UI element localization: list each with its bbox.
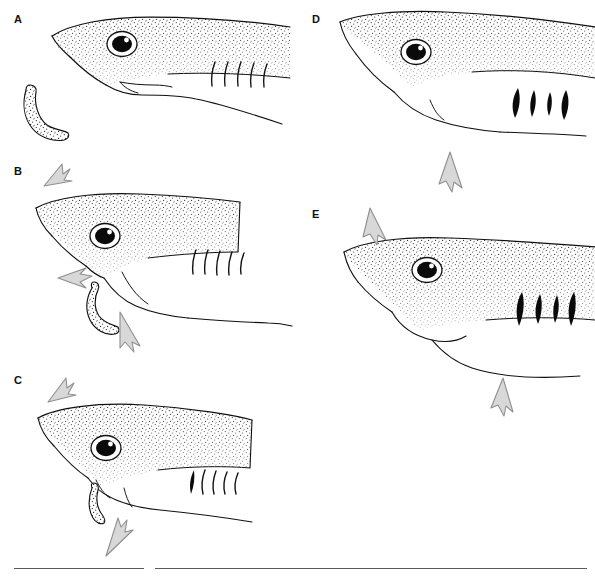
panel-e-drawing <box>300 200 595 430</box>
head-lift-arrow-b <box>44 164 72 186</box>
gill-slits-c <box>190 470 238 494</box>
panel-d-label: D <box>312 14 320 25</box>
panel-d: D <box>300 0 595 200</box>
eye-a <box>107 32 137 57</box>
gill-slits-d <box>513 88 569 120</box>
head-lift-arrow-c <box>48 378 76 402</box>
eye-b <box>90 224 120 249</box>
lower-jaw-depression-arrow-b <box>120 312 140 352</box>
prey-item-b <box>87 282 119 334</box>
panel-c-label: C <box>14 375 22 386</box>
panel-c-drawing <box>0 360 300 560</box>
gill-slits-b <box>193 250 244 275</box>
shark-head-d <box>330 4 595 136</box>
shark-head-c <box>28 396 268 522</box>
footer-rule-left <box>14 568 144 569</box>
panel-b: B <box>0 160 300 360</box>
panel-a: A <box>0 0 300 160</box>
shark-head-b <box>25 185 292 326</box>
throat-recovery-arrow-e <box>491 378 513 416</box>
panel-b-label: B <box>14 166 22 177</box>
panel-a-drawing <box>0 0 300 160</box>
upper-jaw-protrusion-arrow-b <box>58 268 92 288</box>
eye-d <box>401 40 431 65</box>
shark-head-a <box>40 10 300 124</box>
panel-d-drawing <box>300 0 595 200</box>
throat-expansion-arrow-d <box>439 152 462 192</box>
prey-item-c <box>89 483 105 524</box>
panel-e-label: E <box>312 209 319 220</box>
prey-item-a <box>24 85 69 141</box>
panel-a-label: A <box>14 14 22 25</box>
head-depression-arrow-e <box>363 208 386 245</box>
hyoid-elevation-arrow-c <box>106 518 133 556</box>
shark-feeding-sequence-figure: A <box>0 0 595 580</box>
eye-e <box>412 258 442 283</box>
footer-rule-right <box>155 568 587 569</box>
eye-c <box>91 436 121 461</box>
panel-e: E <box>300 200 595 430</box>
panel-c: C <box>0 360 300 560</box>
panel-b-drawing <box>0 160 300 360</box>
